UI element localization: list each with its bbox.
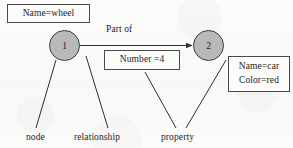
node-label: 1 <box>62 41 67 51</box>
edge-label-part-of: Part of <box>106 24 132 34</box>
annotation-label-relationship: relationship <box>74 132 120 142</box>
leader-line-node <box>36 60 56 128</box>
attribute-box-number: Number =4 <box>104 50 180 70</box>
leader-line-property-car <box>186 60 226 128</box>
attribute-line: Name=car <box>239 60 279 74</box>
diagram-canvas: Name=wheel Number =4 Name=car Color=red … <box>0 0 293 148</box>
annotation-label-property: property <box>161 132 194 142</box>
attribute-line: Color=red <box>239 74 279 88</box>
node-circle-2: 2 <box>193 30 224 61</box>
attribute-box-car: Name=car Color=red <box>228 56 290 92</box>
attribute-line: Name=wheel <box>23 7 75 21</box>
node-circle-1: 1 <box>49 30 80 61</box>
attribute-box-wheel: Name=wheel <box>7 4 90 23</box>
attribute-line: Number =4 <box>120 53 165 67</box>
annotation-label-node: node <box>26 132 45 142</box>
node-label: 2 <box>206 41 211 51</box>
leader-line-property-number <box>145 72 176 128</box>
